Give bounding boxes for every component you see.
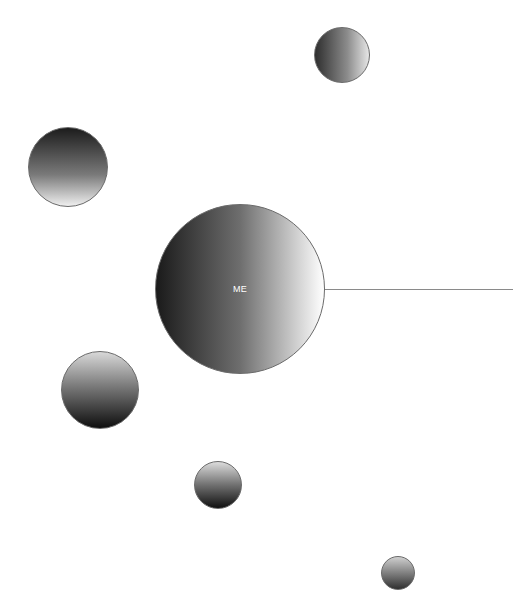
node-bottom-right[interactable] <box>381 556 415 590</box>
me-label: ME <box>233 284 247 294</box>
node-lower-left[interactable] <box>61 351 139 429</box>
connector-line <box>325 289 513 290</box>
node-left[interactable] <box>28 127 108 207</box>
node-top-right[interactable] <box>314 27 370 83</box>
node-bottom-center[interactable] <box>194 461 242 509</box>
